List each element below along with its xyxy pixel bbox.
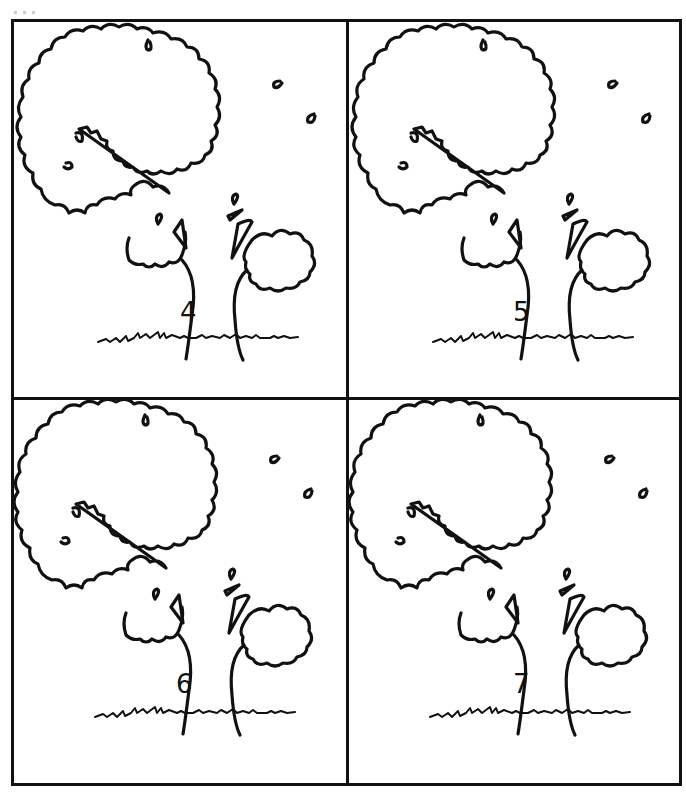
card-number: 4 <box>180 299 197 325</box>
tree-card-5: 5 <box>349 22 681 397</box>
card-number: 5 <box>513 299 530 325</box>
tree-icon <box>14 22 346 397</box>
scan-marks <box>14 0 44 6</box>
tree-icon <box>349 22 681 397</box>
worksheet-grid: 4 5 6 7 <box>11 19 682 786</box>
card-number: 7 <box>513 671 530 697</box>
tree-card-4: 4 <box>14 22 346 397</box>
tree-card-7: 7 <box>349 400 681 775</box>
tree-card-6: 6 <box>14 400 346 775</box>
tree-icon <box>349 400 681 775</box>
tree-icon <box>14 400 346 775</box>
card-number: 6 <box>176 671 193 697</box>
